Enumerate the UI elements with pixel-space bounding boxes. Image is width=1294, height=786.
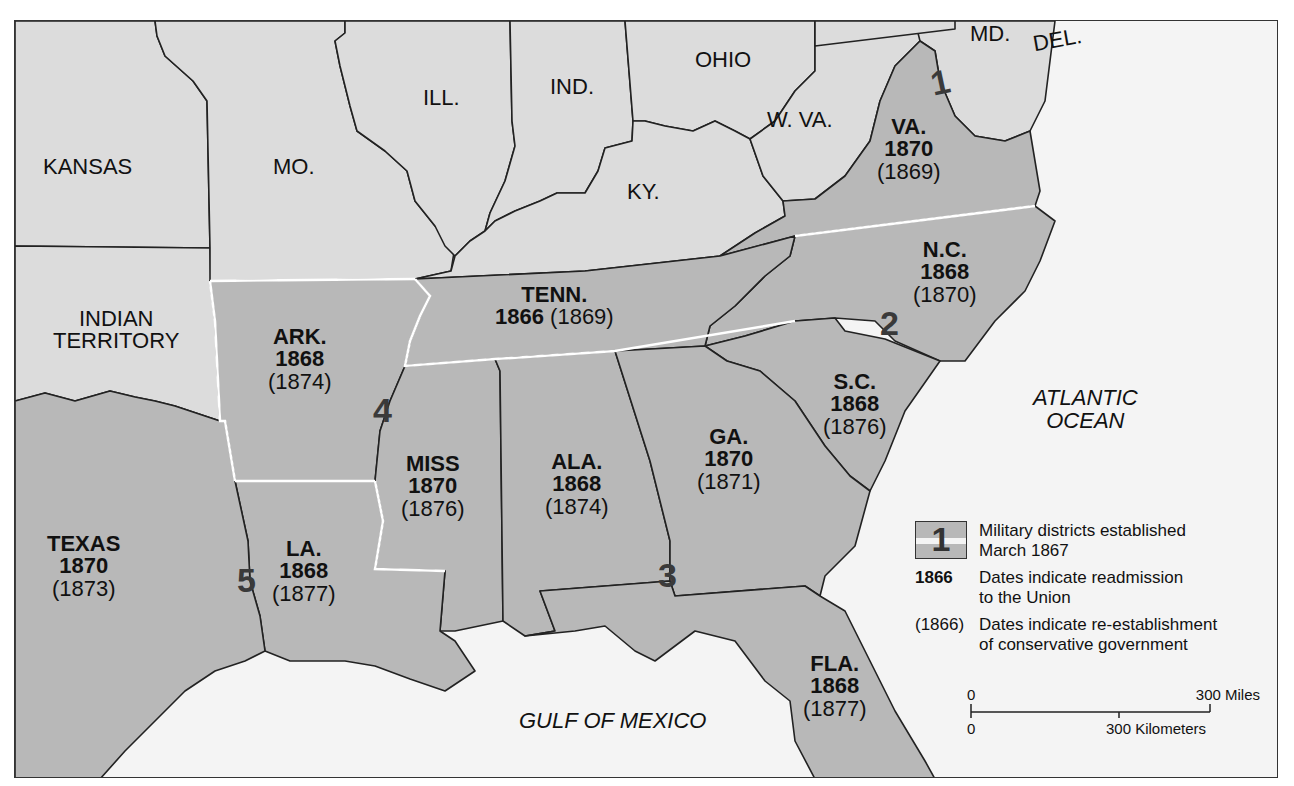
label-north-carolina: N.C. 1868 (1870): [913, 239, 977, 306]
label-virginia: VA. 1870 (1869): [877, 116, 941, 183]
label-kentucky: KY.: [627, 181, 660, 203]
legend-readmission: 1866 Dates indicate readmission to the U…: [915, 568, 1275, 607]
district-5-number: 5: [237, 561, 256, 600]
label-alabama: ALA. 1868 (1874): [545, 451, 609, 518]
label-tennessee: TENN. 1866 (1869): [495, 284, 614, 329]
label-indiana: IND.: [550, 76, 594, 98]
district-3-number: 3: [658, 556, 677, 595]
label-louisiana: LA. 1868 (1877): [272, 538, 336, 605]
label-missouri: MO.: [273, 156, 315, 178]
legend-military-districts: 1 Military districts established March 1…: [915, 521, 1275, 560]
label-south-carolina: S.C. 1868 (1876): [823, 371, 887, 438]
label-ohio: OHIO: [695, 49, 751, 71]
label-gulf-of-mexico: GULF OF MEXICO: [519, 709, 706, 732]
label-texas: TEXAS 1870 (1873): [47, 533, 120, 600]
label-mississippi: MISS 1870 (1876): [401, 453, 465, 520]
label-kansas: KANSAS: [43, 156, 132, 178]
label-west-virginia: W. VA.: [767, 109, 833, 131]
scale-line: [970, 704, 1220, 720]
map-legend: 1 Military districts established March 1…: [915, 521, 1275, 662]
label-florida: FLA. 1868 (1877): [803, 653, 867, 720]
legend-conservative-government: (1866) Dates indicate re-establishment o…: [915, 615, 1275, 654]
military-district-swatch-icon: 1: [915, 521, 967, 559]
map-frame: KANSAS MO. ILL. IND. OHIO KY. W. VA. MD.…: [14, 20, 1278, 778]
region-florida: [525, 581, 935, 778]
label-arkansas: ARK. 1868 (1874): [268, 326, 332, 393]
scale-bar: 0 300 Miles 0 300 Kilometers: [970, 686, 1270, 766]
district-4-number: 4: [373, 391, 392, 430]
label-indian-territory: INDIAN TERRITORY: [53, 308, 179, 353]
district-2-number: 2: [880, 304, 899, 343]
label-georgia: GA. 1870 (1871): [697, 426, 761, 493]
label-atlantic-ocean: ATLANTIC OCEAN: [1033, 386, 1138, 432]
label-maryland: MD.: [970, 23, 1010, 45]
label-illinois: ILL.: [423, 87, 460, 109]
